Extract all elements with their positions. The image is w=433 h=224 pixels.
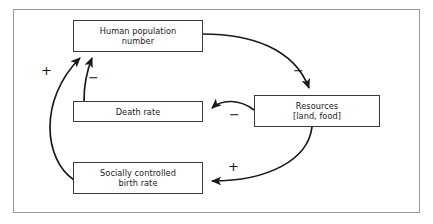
edge-sign-resources-to-birth: + bbox=[228, 160, 239, 173]
node-resources[interactable]: Resources [land, food] bbox=[254, 95, 380, 127]
node-resources-label: Resources [land, food] bbox=[290, 101, 344, 121]
node-human-population-number[interactable]: Human population number bbox=[73, 20, 203, 52]
edge-sign-birth-to-population: + bbox=[41, 64, 52, 77]
edge-resources-to-birth bbox=[212, 127, 312, 181]
node-death-label: Death rate bbox=[113, 107, 164, 117]
edge-sign-population-to-resources: − bbox=[293, 64, 304, 77]
diagram-canvas: Human population number Death rate Socia… bbox=[0, 0, 433, 224]
edge-sign-death-to-population: − bbox=[88, 71, 99, 84]
node-birth-label: Socially controlled birth rate bbox=[97, 168, 179, 188]
edge-population-to-resources bbox=[203, 34, 309, 88]
node-socially-controlled-birth-rate[interactable]: Socially controlled birth rate bbox=[73, 162, 203, 194]
edge-sign-resources-to-death: − bbox=[229, 108, 240, 121]
node-death-rate[interactable]: Death rate bbox=[73, 101, 203, 122]
node-population-label: Human population number bbox=[97, 26, 180, 46]
